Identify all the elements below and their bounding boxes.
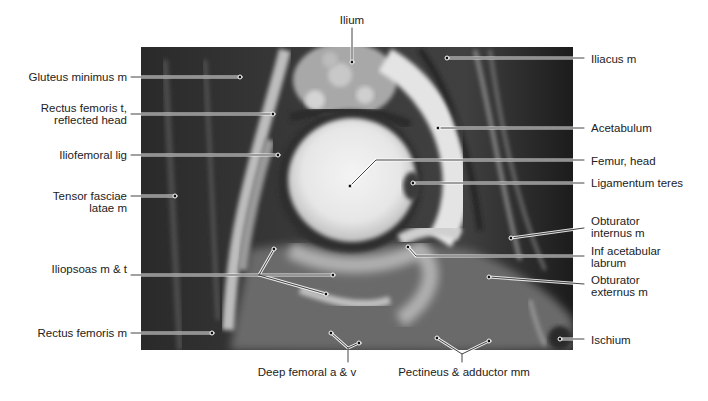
label-tensor-line1: Tensor fasciae [53, 190, 127, 202]
label-obturator-internus: Obturator internus m [591, 215, 645, 239]
label-tensor-fasciae-latae: Tensor fasciae latae m [53, 190, 127, 214]
label-obturator-externus: Obturator externus m [591, 274, 648, 298]
label-iliofemoral-lig: Iliofemoral lig [59, 149, 127, 161]
label-inf-acetabular-line1: Inf acetabular [591, 245, 661, 257]
label-pectineus-adductor: Pectineus & adductor mm [398, 366, 530, 378]
annotated-mri-figure: Ilium Gluteus minimus m Rectus femoris t… [0, 0, 708, 401]
label-obturator-externus-line2: externus m [591, 286, 648, 298]
label-acetabulum: Acetabulum [591, 122, 652, 134]
label-ligamentum-teres: Ligamentum teres [591, 177, 683, 189]
label-rectus-femoris-tendon-line2: reflected head [41, 114, 127, 126]
label-rectus-femoris-m: Rectus femoris m [38, 327, 127, 339]
label-femur-head: Femur, head [591, 155, 656, 167]
label-ilium: Ilium [340, 14, 364, 26]
label-inf-acetabular-labrum: Inf acetabular labrum [591, 245, 661, 269]
label-tensor-line2: latae m [53, 202, 127, 214]
label-obturator-externus-line1: Obturator [591, 274, 648, 286]
label-obturator-internus-line2: internus m [591, 227, 645, 239]
label-iliacus: Iliacus m [591, 53, 636, 65]
label-ischium: Ischium [591, 334, 631, 346]
label-rectus-femoris-tendon: Rectus femoris t, reflected head [41, 102, 127, 126]
label-iliopsoas: Iliopsoas m & t [52, 263, 127, 275]
label-obturator-internus-line1: Obturator [591, 215, 645, 227]
label-gluteus-minimus: Gluteus minimus m [29, 71, 127, 83]
label-rectus-femoris-tendon-line1: Rectus femoris t, [41, 102, 127, 114]
label-deep-femoral: Deep femoral a & v [258, 366, 356, 378]
label-inf-acetabular-line2: labrum [591, 257, 661, 269]
